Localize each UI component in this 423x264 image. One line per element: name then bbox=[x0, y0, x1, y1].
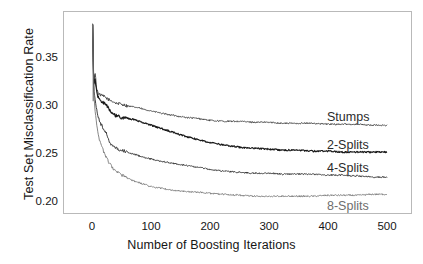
figure: Test Set Misclassification Rate Number o… bbox=[0, 0, 423, 264]
y-tick-label: 0.25 bbox=[20, 147, 58, 159]
x-tick-label: 300 bbox=[249, 220, 289, 232]
series-label-4-splits: 4-Splits bbox=[327, 161, 369, 175]
x-tick-label: 0 bbox=[72, 220, 112, 232]
x-axis-title: Number of Boosting Iterations bbox=[0, 238, 423, 252]
x-tick-label: 200 bbox=[190, 220, 230, 232]
y-tick-label: 0.20 bbox=[20, 195, 58, 207]
series-label-stumps: Stumps bbox=[327, 110, 369, 124]
series-label-2-splits: 2-Splits bbox=[327, 138, 369, 152]
y-axis-title-wrapper: Test Set Misclassification Rate bbox=[19, 14, 37, 214]
y-tick-label: 0.35 bbox=[20, 51, 58, 63]
series-label-8-splits: 8-Splits bbox=[327, 199, 369, 213]
y-tick-label: 0.30 bbox=[20, 99, 58, 111]
x-tick-label: 500 bbox=[367, 220, 407, 232]
x-tick-label: 400 bbox=[308, 220, 348, 232]
x-tick-label: 100 bbox=[131, 220, 171, 232]
